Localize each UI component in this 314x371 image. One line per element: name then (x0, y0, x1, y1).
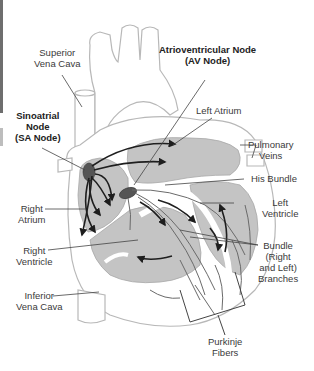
label-superior-vena-cava: Superior Vena Cava (34, 47, 80, 69)
label-his-bundle: His Bundle (251, 173, 297, 184)
label-right-atrium: Right Atrium (18, 203, 45, 225)
label-left-atrium: Left Atrium (196, 105, 241, 116)
heart-conduction-diagram: Superior Vena Cava Atrioventricular Node… (0, 0, 314, 371)
label-inferior-vena-cava: Inferior Vena Cava (16, 290, 62, 312)
label-left-ventricle: Left Ventricle (262, 197, 298, 219)
label-bundle-branches: Bundle (Right and Left) Branches (258, 240, 298, 284)
label-pulmonary-veins: Pulmonary Veins (248, 139, 293, 161)
label-right-ventricle: Right Ventricle (16, 245, 52, 267)
label-sa-node: Sinoatrial Node (SA Node) (15, 110, 61, 143)
label-av-node: Atrioventricular Node (AV Node) (159, 44, 256, 66)
label-purkinje-fibers: Purkinje Fibers (208, 336, 242, 358)
